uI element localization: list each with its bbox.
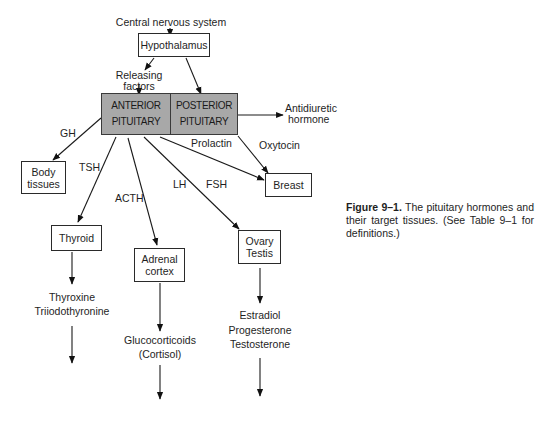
adrenal-products: Glucocorticoids (Cortisol) [110, 333, 210, 361]
posterior-pituitary-line-1: POSTERIOR [176, 98, 232, 114]
ovary-testis-box: Ovary Testis [238, 230, 281, 264]
lh-label: LH [173, 178, 186, 191]
releasing-factors-label: Releasing factors [108, 70, 170, 92]
posterior-pituitary-line-2: PITUITARY [180, 114, 229, 130]
thyroxine-label: Thyroxine [22, 290, 122, 304]
thyroid-box: Thyroid [51, 225, 102, 251]
breast-box: Breast [265, 173, 312, 197]
antidiuretic-line-2: hormone [285, 114, 337, 125]
gonad-products: Estradiol Progesterone Testosterone [210, 308, 310, 352]
testis-label: Testis [246, 247, 273, 259]
anterior-pituitary-box: ANTERIOR PITUITARY [101, 93, 171, 135]
releasing-factors-line-2: factors [108, 81, 170, 92]
glucocorticoids-label: Glucocorticoids [110, 333, 210, 347]
cortisol-label: (Cortisol) [110, 347, 210, 361]
anterior-pituitary-line-2: PITUITARY [112, 114, 161, 130]
triiodothyronine-label: Triiodothyronine [22, 304, 122, 318]
acth-label: ACTH [115, 192, 144, 205]
testosterone-label: Testosterone [210, 337, 310, 352]
antidiuretic-hormone-label: Antidiuretic hormone [285, 103, 337, 125]
posterior-pituitary-box: POSTERIOR PITUITARY [170, 93, 238, 135]
oxytocin-label: Oxytocin [259, 139, 300, 152]
arrow-tsh [78, 137, 116, 222]
figure-label: Figure 9–1. [346, 201, 402, 213]
fsh-label: FSH [206, 178, 227, 191]
body-tissues-line-1: Body [32, 166, 56, 178]
body-tissues-line-2: tissues [27, 178, 60, 190]
adrenal-cortex-line-2: cortex [145, 265, 174, 277]
adrenal-cortex-line-1: Adrenal [141, 253, 177, 265]
anterior-pituitary-line-1: ANTERIOR [111, 98, 160, 114]
tsh-label: TSH [79, 161, 100, 174]
hypothalamus-label: Hypothalamus [140, 39, 207, 52]
breast-label: Breast [273, 179, 303, 192]
body-tissues-box: Body tissues [21, 161, 66, 194]
arrow-hypothalamus-to-posterior [186, 58, 201, 94]
adrenal-cortex-box: Adrenal cortex [134, 248, 185, 282]
cns-label: Central nervous system [112, 16, 230, 29]
hypothalamus-box: Hypothalamus [138, 33, 210, 57]
progesterone-label: Progesterone [210, 323, 310, 338]
estradiol-label: Estradiol [210, 308, 310, 323]
thyroid-products: Thyroxine Triiodothyronine [22, 290, 122, 318]
thyroid-label: Thyroid [59, 232, 94, 245]
gh-label: GH [60, 127, 76, 140]
ovary-label: Ovary [245, 235, 273, 247]
figure-caption: Figure 9–1. The pituitary hormones and t… [346, 201, 534, 240]
prolactin-label: Prolactin [191, 137, 232, 150]
